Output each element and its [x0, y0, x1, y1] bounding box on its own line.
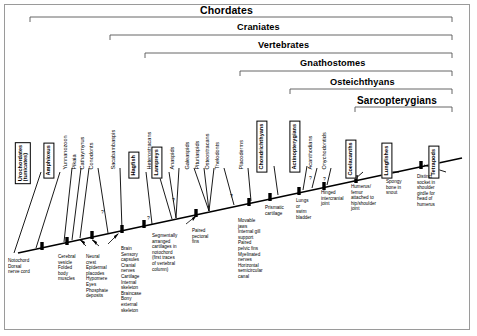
character-hinged-intercranial-joint: Hinged intercranial joint	[321, 190, 353, 207]
branch-actinopterygians	[303, 166, 307, 190]
uncertainty-mark-thelodonts: ?	[230, 193, 233, 199]
taxon-lampreys[interactable]: Lampreys	[151, 146, 162, 178]
taxon-onychodontids[interactable]: Onychodontids	[322, 132, 328, 169]
character-distinct-socket: Distinct socket in shoulder girdle for h…	[417, 174, 449, 208]
taxon-chondrichthyans[interactable]: Chondrichthyans	[256, 121, 267, 173]
taxon-osteostracans[interactable]: Osteostracans	[205, 134, 211, 170]
branch-anaspids	[176, 168, 179, 218]
character-spongy-bone: Spongy bone in snout	[386, 179, 414, 196]
branch-thelodonts	[224, 168, 234, 205]
branch-pikaia	[72, 168, 81, 240]
bracket-craniates	[110, 35, 452, 40]
taxon-sublabel-urochordates: (tunicates)	[23, 145, 29, 181]
taxon-lungfishes[interactable]: Lungfishes	[381, 143, 392, 179]
arrowhead-3	[92, 239, 97, 245]
taxon-pituriaspids[interactable]: Pituriaspids	[195, 141, 201, 170]
taxon-acanthodians[interactable]: Acanthodians	[308, 136, 314, 170]
bracket-osteichthyans	[290, 89, 452, 94]
taxon-galeaspids[interactable]: Galeaspids	[185, 142, 191, 170]
character-lungs-swim-bladder: Lungs or swim bladder	[296, 198, 320, 220]
branch-amphioxus	[36, 172, 60, 248]
character-notochord: Notochord Dorsal nerve cord	[8, 258, 44, 275]
bracket-sarcopterygians	[355, 107, 452, 112]
branch-osteostracans	[209, 168, 214, 211]
clade-brackets	[30, 17, 452, 112]
branch-sacabambaspis	[120, 168, 122, 230]
character-humerus-femur: Humerus/ femur attached to hip/shoulder …	[351, 184, 389, 212]
branch-onychodontids	[327, 168, 331, 185]
taxon-sacabambaspis[interactable]: Sacabambaspis	[111, 130, 117, 170]
arrowhead-2	[114, 233, 119, 239]
taxon-urochordates[interactable]: Urochordates (tunicates)	[15, 142, 31, 184]
character-prismatic-cartilage: Prismatic cartilage	[265, 205, 297, 216]
taxon-actinopterygians[interactable]: Actinopterygians	[289, 121, 300, 173]
character-segmental-cartilages: Segmentally arranged cartilages in notoc…	[152, 233, 190, 272]
taxon-anaspids[interactable]: Anaspids	[170, 147, 176, 170]
taxon-cathaymyrus[interactable]: Cathaymyrus	[80, 137, 86, 170]
taxon-hagfish[interactable]: Hagfish	[128, 152, 139, 179]
uncertainty-mark-acanthodians: ?	[309, 175, 312, 181]
cladogram-figure: Chordates Craniates Vertebrates Gnathost…	[0, 0, 477, 336]
character-cerebral-vesicle: Cerebral vesicle Folded body muscles	[58, 254, 86, 282]
bracket-gnathostomes	[240, 71, 452, 76]
branch-chondrichthyans	[274, 166, 278, 195]
character-neural-crest: Neural crest Epidermal placodes Hypomere…	[86, 254, 116, 299]
uncertainty-mark-anaspids: ?	[172, 197, 175, 203]
character-brain-sensory: Brain Sensory capsules Cranial nerves Ca…	[121, 246, 151, 313]
bracket-chordates	[30, 17, 452, 22]
branch-yunnanozoon	[64, 168, 72, 242]
taxon-conodonts[interactable]: Conodonts	[89, 143, 95, 170]
uncertainty-mark-onychodontids: ?	[323, 176, 326, 182]
branch-conodonts	[98, 168, 108, 233]
character-movable-jaws: Movable jaws Internal gill support Paire…	[238, 218, 274, 280]
uncertainty-mark-conodonts: ?	[101, 209, 104, 215]
branch-acanthodians	[312, 168, 317, 188]
branch-placoderms	[248, 168, 251, 201]
uncertainty-mark-hagfish: ?	[147, 215, 150, 221]
bracket-vertebrates	[145, 53, 452, 58]
taxon-yunnanozoon[interactable]: Yunnanozoon	[63, 135, 69, 169]
taxon-pikaia[interactable]: Pikaia	[72, 154, 78, 169]
branch-cathaymyrus	[80, 168, 89, 238]
taxon-thelodonts[interactable]: Thelodonts	[215, 142, 221, 170]
taxon-amphioxus[interactable]: Amphioxus	[43, 142, 54, 178]
taxon-coelacanths[interactable]: Coelacanths	[345, 139, 356, 178]
character-paired-pectoral-fins: Paired pectoral fins	[192, 228, 220, 245]
taxon-placoderms[interactable]: Placoderms	[239, 140, 245, 170]
